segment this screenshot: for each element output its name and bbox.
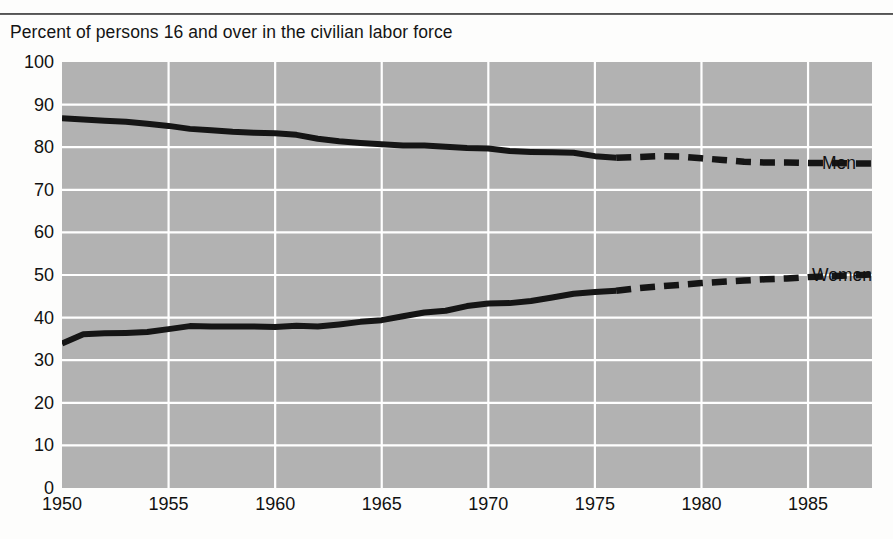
x-tick-label: 1970 [468,494,508,514]
x-axis-tick-labels: 19501955196019651970197519801985 [62,494,872,522]
y-tick-label: 80 [2,138,54,156]
top-divider-rule [0,13,893,15]
series-label-men: Men [822,154,856,172]
y-tick-label: 40 [2,309,54,327]
x-tick-label: 1980 [681,494,721,514]
plot-area [62,62,872,488]
series-label-women: Women [812,266,872,284]
plot-svg [62,62,872,488]
y-axis-tick-labels: 1009080706050403020100 [0,62,54,488]
x-tick-label: 1975 [575,494,615,514]
chart-title: Percent of persons 16 and over in the ci… [10,22,453,43]
y-tick-label: 90 [2,96,54,114]
chart-figure: Percent of persons 16 and over in the ci… [0,0,893,539]
x-tick-label: 1985 [788,494,828,514]
y-tick-label: 10 [2,436,54,454]
x-tick-label: 1965 [362,494,402,514]
horizontal-gridlines [62,62,872,445]
y-tick-label: 100 [2,53,54,71]
x-tick-label: 1955 [149,494,189,514]
y-tick-label: 20 [2,394,54,412]
x-tick-label: 1960 [255,494,295,514]
y-tick-label: 30 [2,351,54,369]
x-tick-label: 1950 [42,494,82,514]
series-lines [62,118,872,343]
y-tick-label: 50 [2,266,54,284]
y-tick-label: 70 [2,181,54,199]
y-tick-label: 60 [2,223,54,241]
